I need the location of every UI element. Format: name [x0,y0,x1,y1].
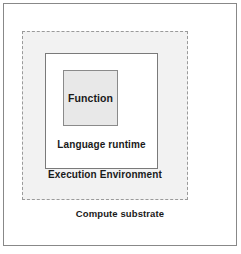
compute-substrate-label: Compute substrate [4,209,236,219]
compute-substrate-box: Function Language runtime Execution Envi… [3,3,237,246]
function-label: Function [64,93,117,104]
execution-environment-box: Function Language runtime Execution Envi… [22,31,188,200]
execution-environment-label: Execution Environment [23,170,187,180]
function-box: Function [63,70,118,126]
language-runtime-box: Function Language runtime [45,53,158,169]
language-runtime-label: Language runtime [46,140,157,150]
